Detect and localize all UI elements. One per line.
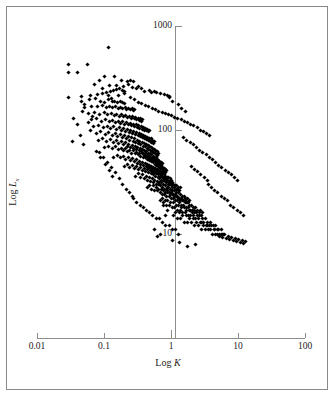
data-point (99, 130, 103, 134)
x-tick-label-0: 0.01 (7, 341, 67, 352)
data-point (81, 110, 85, 114)
data-point (143, 136, 147, 140)
data-point (120, 78, 124, 82)
data-point (123, 141, 127, 145)
data-point (156, 182, 160, 186)
data-point (132, 98, 136, 102)
data-point (97, 112, 101, 116)
data-point (165, 185, 169, 189)
data-point (157, 173, 161, 177)
data-point (133, 144, 137, 148)
data-point (135, 150, 139, 154)
data-point (177, 103, 181, 107)
data-point (86, 120, 90, 124)
data-point (160, 163, 164, 167)
data-point (135, 117, 139, 121)
data-point (183, 110, 187, 114)
data-point (167, 95, 171, 99)
data-point (241, 214, 245, 218)
data-point (106, 113, 110, 117)
data-point (96, 138, 100, 142)
data-point (138, 117, 142, 121)
data-point (112, 113, 116, 117)
data-point (149, 179, 153, 183)
data-point (233, 237, 237, 241)
data-point (67, 71, 71, 75)
data-point (90, 104, 94, 108)
data-point (131, 139, 135, 143)
data-point (117, 177, 121, 181)
data-point (231, 239, 235, 243)
data-point (154, 166, 158, 170)
data-point (104, 105, 108, 109)
data-point (121, 85, 125, 89)
data-point (148, 152, 152, 156)
data-point (195, 211, 199, 215)
data-point (162, 201, 166, 205)
data-point (178, 185, 182, 189)
data-point (102, 100, 106, 104)
data-point (95, 92, 99, 96)
data-point (106, 144, 110, 148)
data-point (136, 145, 140, 149)
data-point (100, 86, 104, 90)
data-point (145, 167, 149, 171)
data-point (102, 111, 106, 115)
data-point (121, 182, 125, 186)
data-point (158, 92, 162, 96)
data-point (158, 162, 162, 166)
data-point (207, 228, 211, 232)
data-point (194, 145, 198, 149)
data-point (143, 103, 147, 107)
data-point (226, 170, 230, 174)
data-point (147, 88, 151, 92)
data-point (168, 182, 172, 186)
data-point (199, 220, 203, 224)
data-point (170, 99, 174, 103)
data-point (152, 139, 156, 143)
data-point (164, 177, 168, 181)
data-point (117, 114, 121, 118)
data-point (142, 141, 146, 145)
data-point (185, 244, 189, 248)
data-point (146, 178, 150, 182)
data-point (157, 217, 161, 221)
data-point (145, 154, 149, 158)
data-point (148, 168, 152, 172)
data-point (93, 97, 97, 101)
data-point (200, 228, 204, 232)
data-point (115, 153, 119, 157)
data-point (92, 110, 96, 114)
data-point (236, 238, 240, 242)
data-point (194, 205, 198, 209)
data-point (149, 157, 153, 161)
data-point (196, 169, 200, 173)
data-point (163, 184, 167, 188)
data-point (71, 116, 75, 120)
data-point (115, 84, 119, 88)
data-point (106, 93, 110, 97)
data-point (147, 154, 151, 158)
data-point (110, 97, 114, 101)
data-point (126, 115, 130, 119)
data-point (199, 173, 203, 177)
data-point (105, 139, 109, 143)
data-point (133, 152, 137, 156)
data-point (184, 205, 188, 209)
data-point (119, 146, 123, 150)
data-point (139, 154, 143, 158)
data-point (135, 201, 139, 205)
data-point (167, 203, 171, 207)
data-point (125, 107, 129, 111)
data-point (188, 208, 192, 212)
data-point (94, 131, 98, 135)
data-point (144, 208, 148, 212)
data-point (151, 181, 155, 185)
data-point (158, 190, 162, 194)
data-point (139, 162, 143, 166)
data-point (160, 196, 164, 200)
data-point (110, 147, 114, 151)
data-point (115, 87, 119, 91)
data-point (166, 190, 170, 194)
x-tick-4 (305, 333, 306, 338)
